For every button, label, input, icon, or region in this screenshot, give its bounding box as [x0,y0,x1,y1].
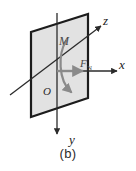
axis-label-x: x [118,57,125,72]
moment-label: M [58,34,70,48]
axis-label-y: y [67,132,75,147]
origin-label: O [43,85,51,97]
normal-force-subscript: N [87,64,92,72]
figure-caption: (b) [0,146,136,161]
normal-force-label: F [79,57,87,69]
figure-container: z x y O M F N (b) [0,0,136,171]
axis-label-z: z [102,13,108,28]
